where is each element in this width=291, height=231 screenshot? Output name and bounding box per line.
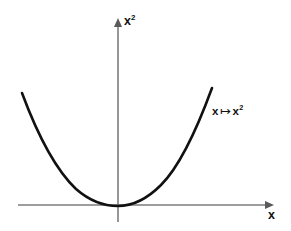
annotation-codomain-exponent: 2: [239, 103, 244, 112]
y-axis-label-exponent: 2: [131, 13, 135, 22]
x-axis: [18, 201, 274, 209]
x-axis-label: x: [268, 209, 275, 222]
y-axis: [114, 18, 122, 222]
plot-canvas: [0, 0, 291, 231]
y-axis-label-base: x: [124, 14, 131, 28]
parabola-figure: x2 x x↦x2: [0, 0, 291, 231]
parabola-curve: [22, 88, 212, 206]
curve-path: [22, 88, 212, 206]
y-axis-label: x2: [124, 15, 135, 28]
mapsto-arrow-icon: ↦: [219, 105, 233, 118]
y-axis-arrowhead-icon: [114, 18, 122, 27]
mapsto-annotation: x↦x2: [212, 104, 244, 118]
annotation-domain-symbol: x: [212, 105, 219, 117]
